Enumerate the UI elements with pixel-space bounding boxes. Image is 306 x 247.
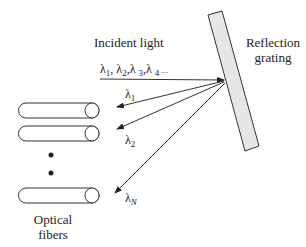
optical-fiber-1 xyxy=(19,103,100,118)
lambda: , λ xyxy=(110,62,122,76)
optical-fibers-label-line2: fibers xyxy=(28,227,78,242)
lambda-2-label: λ2 xyxy=(125,133,135,152)
optical-fiber-n xyxy=(19,188,100,203)
sub: 1 xyxy=(131,93,136,103)
incident-light-label: Incident light xyxy=(94,35,164,50)
optical-fibers-label-line1: Optical xyxy=(28,212,78,227)
reflection-grating-label-line2: grating xyxy=(240,50,306,65)
reflection-grating-label: Reflection grating xyxy=(240,35,306,65)
reflection-grating xyxy=(208,11,259,151)
optical-fiber-2 xyxy=(19,126,100,141)
optical-fibers-label: Optical fibers xyxy=(28,212,78,242)
ellipsis: ... xyxy=(159,65,168,75)
lambda-n-label: λN xyxy=(125,191,137,210)
incident-wavelengths-label: λ1, λ2,λ 3,λ 4 ... xyxy=(100,62,168,81)
sub: N xyxy=(131,197,137,207)
ellipsis-dot-1 xyxy=(49,153,54,158)
sub: 2 xyxy=(131,139,136,149)
lambda-1-label: λ1 xyxy=(125,87,135,106)
lambda: ,λ xyxy=(143,62,155,76)
reflection-grating-label-line1: Reflection xyxy=(240,35,306,50)
lambda: ,λ xyxy=(127,62,139,76)
ellipsis-dot-2 xyxy=(49,171,54,176)
